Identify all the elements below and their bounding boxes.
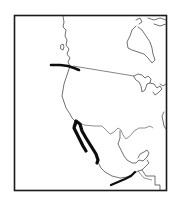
- range-marker-pacific-northwest: [51, 65, 79, 70]
- gulf-coast: [118, 131, 149, 163]
- central-america: [133, 160, 160, 190]
- hudson-bay: [127, 26, 155, 63]
- range-map: [0, 0, 176, 200]
- florida-coast: [162, 112, 166, 129]
- mexico-west-coast: [99, 164, 133, 178]
- connector-line: [73, 66, 134, 76]
- northern-islands: [136, 18, 166, 26]
- east-coast: [160, 84, 166, 86]
- vancouver-island: [61, 44, 64, 50]
- map-frame: [15, 16, 167, 191]
- map-canvas: [0, 0, 176, 200]
- great-lakes: [134, 74, 162, 95]
- range-marker-southern-mexico: [111, 172, 135, 185]
- central-america-border: [138, 171, 152, 180]
- us-mexico-border: [77, 122, 153, 139]
